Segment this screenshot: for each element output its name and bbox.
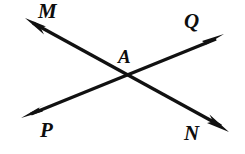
point-label-n: N	[184, 123, 199, 144]
point-label-q: Q	[184, 11, 199, 32]
point-label-a: A	[118, 47, 131, 66]
geometry-canvas	[0, 0, 245, 154]
point-label-p: P	[40, 120, 53, 141]
geometry-figure: M Q A P N	[0, 0, 245, 154]
point-label-m: M	[38, 1, 57, 22]
